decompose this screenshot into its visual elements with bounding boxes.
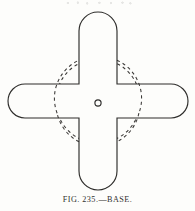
caption-fig-title: BASE. — [107, 195, 132, 204]
caption-dash: — — [98, 195, 107, 204]
figure-page: Line drawing of a cross-shaped metal bas… — [0, 0, 195, 211]
caption-fig-label: FIG. — [63, 195, 80, 204]
caption-fig-number: 235. — [82, 195, 98, 204]
center-hole — [95, 100, 101, 106]
base-plate-figure: Line drawing of a cross-shaped metal bas… — [0, 0, 195, 211]
figure-caption: FIG. 235.—BASE. — [0, 194, 195, 205]
